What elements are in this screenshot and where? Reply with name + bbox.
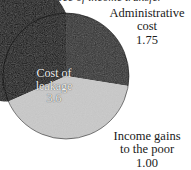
slice-label-line-1: Income gains (103, 130, 191, 143)
slice-label-value: 1.00 (103, 157, 191, 170)
slice-label-value: 1.75 (104, 34, 190, 47)
pie-chart-figure: cost per rupee of income transfer (0, 0, 191, 170)
slice-label-cost-of-leakage: Cost of leakage 3.6 (18, 67, 90, 105)
slice-label-line-1: Cost of (18, 67, 90, 80)
slice-label-line-2: to the poor (103, 143, 191, 156)
slice-label-value: 3.6 (18, 92, 90, 105)
slice-label-administrative-cost: Administrative cost 1.75 (104, 7, 190, 47)
slice-label-line-2: cost (104, 20, 190, 33)
slice-label-income-gains: Income gains to the poor 1.00 (103, 130, 191, 170)
slice-label-line-1: Administrative (104, 7, 190, 20)
